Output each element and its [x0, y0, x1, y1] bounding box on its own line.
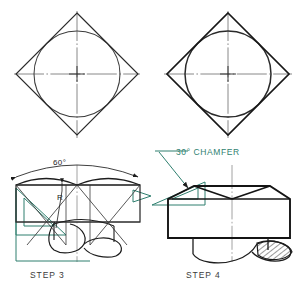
panel-bottom-right: 30° CHAMFER: [152, 147, 292, 280]
nut-front-view-outline: [168, 186, 290, 238]
radius-label: R: [57, 193, 63, 202]
direction-arrow-tool: [133, 190, 151, 202]
technical-drawing-canvas: 60° R STEP 3: [0, 0, 305, 290]
angle-dimension-label: 60°: [53, 158, 66, 167]
panel-top-left: [14, 11, 140, 138]
step-caption-4: STEP 4: [186, 270, 221, 280]
panel-bottom-left: 60° R STEP 3: [16, 158, 151, 280]
nut-front-view-outline: [16, 185, 140, 222]
center-mark-icon: [220, 66, 236, 82]
radius-leader-line: [56, 183, 62, 228]
step-caption-3: STEP 3: [30, 270, 65, 280]
center-mark-icon: [69, 66, 85, 82]
panel-top-right: [164, 11, 292, 138]
thread-body-ellipses: [49, 219, 122, 257]
chamfer-arcs: [16, 179, 140, 186]
construction-lines: [16, 185, 140, 245]
section-hatch-icon: [257, 241, 292, 260]
chamfer-note-label: 30° CHAMFER: [176, 147, 240, 157]
drawing-sheet: 60° R STEP 3: [0, 0, 305, 290]
